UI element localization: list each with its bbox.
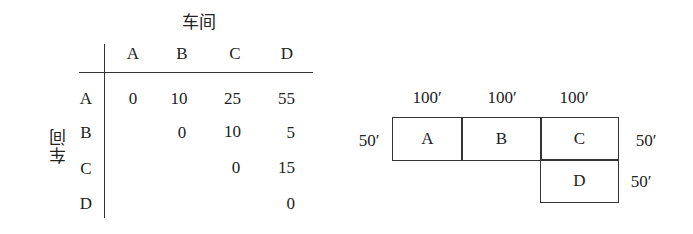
- dim-left: 50′: [359, 131, 380, 151]
- matrix-cell-c-c: 0: [232, 158, 241, 178]
- matrix-cell-c-d: 15: [278, 158, 295, 178]
- matrix-row-header-a: A: [80, 89, 92, 109]
- matrix-cell-a-c: 25: [224, 89, 241, 109]
- workshop-box-a-label: A: [421, 129, 433, 149]
- workshop-box-b-label: B: [496, 129, 507, 149]
- matrix-cell-a-b: 10: [171, 89, 188, 109]
- matrix-col-header-c: C: [229, 44, 240, 64]
- matrix-cell-a-d: 55: [278, 89, 295, 109]
- matrix-cell-b-b: 0: [178, 123, 187, 143]
- workshop-box-a: A: [392, 117, 463, 161]
- workshop-box-c: C: [540, 117, 619, 161]
- workshop-box-c-label: C: [574, 129, 585, 149]
- dim-top-b: 100′: [487, 88, 516, 108]
- matrix-cell-d-d: 0: [287, 194, 296, 214]
- matrix-column-title: 车间: [182, 13, 216, 33]
- matrix-horizontal-rule: [79, 72, 313, 73]
- matrix-row-header-c: C: [80, 159, 91, 179]
- matrix-col-header-b: B: [176, 44, 187, 64]
- matrix-cell-a-a: 0: [129, 89, 138, 109]
- matrix-row-header-b: B: [80, 123, 91, 143]
- workshop-box-d: D: [540, 159, 619, 203]
- matrix-cell-b-d: 5: [287, 123, 296, 143]
- matrix-col-header-a: A: [127, 44, 139, 64]
- matrix-col-header-d: D: [281, 44, 293, 64]
- dim-top-a: 100′: [412, 88, 441, 108]
- matrix-row-header-d: D: [80, 194, 92, 214]
- dim-top-c: 100′: [559, 88, 588, 108]
- matrix-vertical-rule: [104, 44, 105, 218]
- matrix-row-title: 车间: [46, 128, 71, 164]
- dim-right-c: 50′: [636, 131, 657, 151]
- dim-right-d: 50′: [631, 172, 652, 192]
- workshop-box-b: B: [461, 117, 542, 161]
- matrix-cell-b-c: 10: [224, 122, 241, 142]
- workshop-box-d-label: D: [573, 171, 585, 191]
